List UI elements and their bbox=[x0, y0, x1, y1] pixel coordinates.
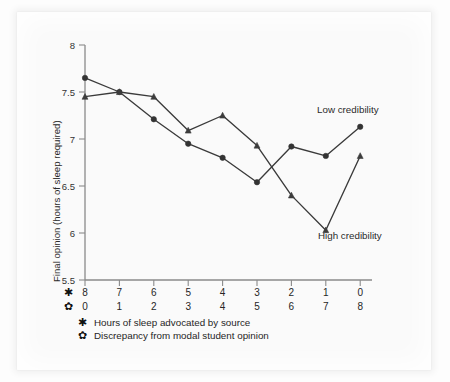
x-label-disc-8: 8 bbox=[357, 301, 363, 312]
chart-legend: ✱ Hours of sleep advocated by source ✿ D… bbox=[78, 316, 269, 341]
x-label-disc-2: 2 bbox=[151, 301, 157, 312]
legend-label-discrepancy: Discrepancy from modal student opinion bbox=[94, 330, 269, 341]
asterisk-marker-legend-icon: ✱ bbox=[78, 316, 87, 328]
x-label-hours-3: 5 bbox=[185, 287, 191, 298]
data-point bbox=[254, 180, 259, 185]
data-point bbox=[358, 124, 363, 129]
data-point bbox=[220, 112, 226, 118]
series-layer bbox=[82, 75, 363, 233]
data-point bbox=[323, 153, 328, 158]
annotation-low-credibility: Low credibility bbox=[317, 104, 379, 115]
data-point bbox=[289, 144, 294, 149]
data-point bbox=[82, 75, 87, 80]
x-label-hours-5: 3 bbox=[254, 287, 260, 298]
x-label-hours-4: 4 bbox=[220, 287, 226, 298]
x-label-disc-3: 3 bbox=[185, 301, 191, 312]
legend-label-hours-advocated: Hours of sleep advocated by source bbox=[94, 317, 251, 328]
page-root: Final opinion (hours of sleep required) … bbox=[0, 0, 450, 382]
y-axis-title: Final opinion (hours of sleep required) bbox=[51, 120, 62, 282]
x-label-disc-0: 0 bbox=[82, 301, 88, 312]
y-tick-label-6: 6 bbox=[70, 228, 75, 239]
y-tick-label-7: 7 bbox=[70, 134, 75, 145]
asterisk-marker-axis: ✱ bbox=[64, 286, 73, 298]
x-label-hours-8: 0 bbox=[357, 287, 363, 298]
flower-marker-axis: ✿ bbox=[64, 300, 73, 312]
y-tick-label-5.5: 5.5 bbox=[62, 275, 75, 286]
x-axis-ticks bbox=[85, 280, 360, 286]
sleep-opinion-line-chart: Final opinion (hours of sleep required) … bbox=[0, 0, 450, 382]
series-low-credibility bbox=[82, 75, 363, 185]
x-label-disc-1: 1 bbox=[117, 301, 123, 312]
flower-marker-legend-icon: ✿ bbox=[78, 329, 87, 341]
x-label-hours-6: 2 bbox=[289, 287, 295, 298]
x-label-hours-2: 6 bbox=[151, 287, 157, 298]
figure-canvas: Final opinion (hours of sleep required) … bbox=[0, 0, 450, 382]
y-tick-label-7.5: 7.5 bbox=[62, 87, 75, 98]
x-label-disc-7: 7 bbox=[323, 301, 329, 312]
x-label-hours-0: 8 bbox=[82, 287, 88, 298]
y-axis-ticks: 8 7.5 7 6.5 6 5.5 bbox=[62, 40, 85, 286]
x-label-hours-7: 1 bbox=[323, 287, 329, 298]
data-point bbox=[186, 141, 191, 146]
data-point bbox=[357, 153, 363, 159]
y-tick-label-6.5: 6.5 bbox=[62, 181, 75, 192]
data-point bbox=[220, 155, 225, 160]
y-tick-label-8: 8 bbox=[70, 40, 75, 51]
data-point bbox=[151, 117, 156, 122]
x-label-hours-1: 7 bbox=[117, 287, 123, 298]
x-label-disc-5: 5 bbox=[254, 301, 260, 312]
x-label-disc-4: 4 bbox=[220, 301, 226, 312]
x-label-disc-6: 6 bbox=[289, 301, 295, 312]
x-axis-row-discrepancy: ✿ 0 1 2 3 4 5 6 7 8 bbox=[64, 300, 364, 312]
x-axis-row-hours: ✱ 8 7 6 5 4 3 2 1 0 bbox=[64, 286, 364, 298]
